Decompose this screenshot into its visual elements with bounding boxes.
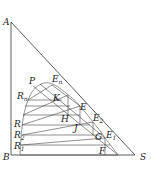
- vertex-s-label: S: [140, 152, 146, 162]
- point-f-label: F: [98, 146, 106, 156]
- point-r2-label: R2: [13, 130, 25, 141]
- ternary-diagram: A B S P En Rn K E E2 E1 H J G F R R2 R1: [0, 0, 151, 170]
- point-h-label: H: [60, 114, 69, 124]
- point-r1-label: R1: [13, 141, 25, 152]
- operating-lines: [33, 84, 118, 155]
- point-g-label: G: [95, 132, 102, 142]
- point-e-label: E: [79, 102, 87, 112]
- point-p-label: P: [28, 76, 36, 86]
- point-e1-label: E1: [105, 130, 116, 141]
- point-r-label: R: [13, 119, 21, 129]
- vertex-b-label: B: [2, 152, 10, 162]
- vertex-a-label: A: [2, 17, 10, 27]
- point-e2-label: E2: [92, 113, 104, 124]
- point-k-label: K: [52, 93, 61, 103]
- point-rn-label: Rn: [16, 91, 28, 102]
